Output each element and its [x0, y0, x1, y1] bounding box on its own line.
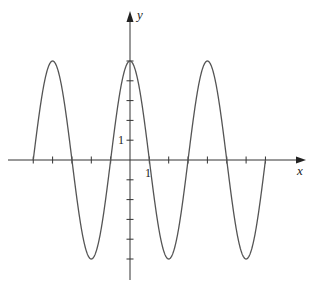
- cosine-graph: x y 1 1: [0, 0, 310, 287]
- axes: [8, 11, 306, 280]
- y-axis-arrow-icon: [127, 11, 134, 22]
- x-tick-label-1: 1: [145, 166, 151, 180]
- y-axis-label: y: [135, 7, 143, 22]
- x-axis-label: x: [296, 163, 303, 178]
- y-tick-label-1: 1: [118, 133, 124, 147]
